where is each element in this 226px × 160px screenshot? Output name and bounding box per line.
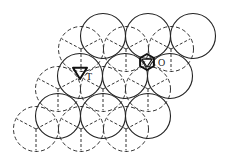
tetrahedral-label: T (86, 71, 92, 82)
diagram-canvas: T O (0, 0, 226, 160)
tetrahedral-void-triangle-icon (73, 68, 87, 79)
octahedral-label: O (158, 57, 165, 68)
close-packing-diagram: T O (0, 0, 226, 160)
